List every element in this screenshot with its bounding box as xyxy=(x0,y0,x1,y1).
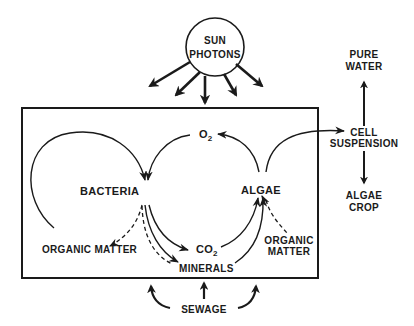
o2-label: O2 xyxy=(199,128,213,143)
sun-circle-icon xyxy=(186,18,244,76)
ray-arrow-icon xyxy=(224,74,236,95)
algae-to-organic-matter-arrow xyxy=(266,200,287,233)
sun-node: SUN PHOTONS xyxy=(186,18,244,76)
suspension-label: SUSPENSION xyxy=(330,138,399,149)
o2-node: O2 xyxy=(199,128,213,143)
organic-matter-left-label: ORGANIC MATTER xyxy=(42,244,138,255)
pure-label: PURE xyxy=(350,49,379,60)
co2-to-algae-arrow xyxy=(221,198,258,247)
algae-arrowhead-icon xyxy=(262,196,263,198)
bacteria-to-organic-matter-arrow xyxy=(110,205,142,246)
algae-label: ALGAE xyxy=(241,184,281,196)
minerals-label: MINERALS xyxy=(179,263,234,274)
algae-crop-node: ALGAE CROP xyxy=(346,190,383,213)
organic-matter-right-line2: MATTER xyxy=(268,246,311,257)
ray-arrow-icon xyxy=(150,62,190,86)
cell-label: CELL xyxy=(350,127,377,138)
organic-matter-right-node: ORGANIC MATTER xyxy=(264,235,313,257)
sewage-label: SEWAGE xyxy=(181,304,227,315)
bacteria-to-co2-arrow xyxy=(149,205,188,250)
algae-crop-line2: CROP xyxy=(349,202,379,213)
bacteria-label: BACTERIA xyxy=(80,185,139,197)
photons-label: PHOTONS xyxy=(189,49,240,60)
o2-to-bacteria-arrow xyxy=(148,135,190,180)
algae-sewage-cycle-diagram: SUN PHOTONS BACTERIA ALGAE O2 CO2 MINERA… xyxy=(0,0,414,326)
co2-label: CO2 xyxy=(196,243,218,258)
ray-arrow-icon xyxy=(236,64,262,86)
organic-to-bacteria-arrow xyxy=(31,132,145,228)
organic-matter-right-line1: ORGANIC xyxy=(264,235,313,246)
co2-node: CO2 xyxy=(196,243,218,258)
water-label: WATER xyxy=(346,61,383,72)
bacteria-to-minerals-arrow xyxy=(145,205,178,262)
sewage-left-arrow xyxy=(151,286,170,308)
sun-label: SUN xyxy=(204,35,226,46)
algae-crop-line1: ALGAE xyxy=(346,190,383,201)
algae-to-o2-arrow xyxy=(218,134,259,172)
minerals-to-algae-arrow xyxy=(235,198,263,263)
ray-arrow-icon xyxy=(176,72,200,95)
algae-to-cell-suspension-arrow xyxy=(266,131,344,172)
pure-water-node: PURE WATER xyxy=(346,49,383,72)
sewage-right-arrow xyxy=(238,286,256,308)
